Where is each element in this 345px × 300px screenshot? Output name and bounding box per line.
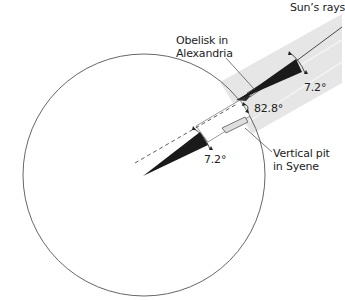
pit-label-line1: Vertical pit <box>273 148 330 160</box>
obelisk-label-line2: Alexandria <box>176 48 233 60</box>
arrowhead <box>192 126 196 130</box>
obelisk-label-line1: Obelisk in <box>176 35 228 47</box>
center-angle-wedge <box>143 132 208 176</box>
center-angle-label: 7.2° <box>204 154 226 166</box>
sun-rays-label: Sun’s rays <box>290 2 345 14</box>
obelisk-angle-label: 82.8° <box>254 103 283 115</box>
top-angle-label: 7.2° <box>304 82 326 94</box>
pit-label-line2: in Syene <box>273 161 319 173</box>
pit-leader-line <box>245 128 272 152</box>
